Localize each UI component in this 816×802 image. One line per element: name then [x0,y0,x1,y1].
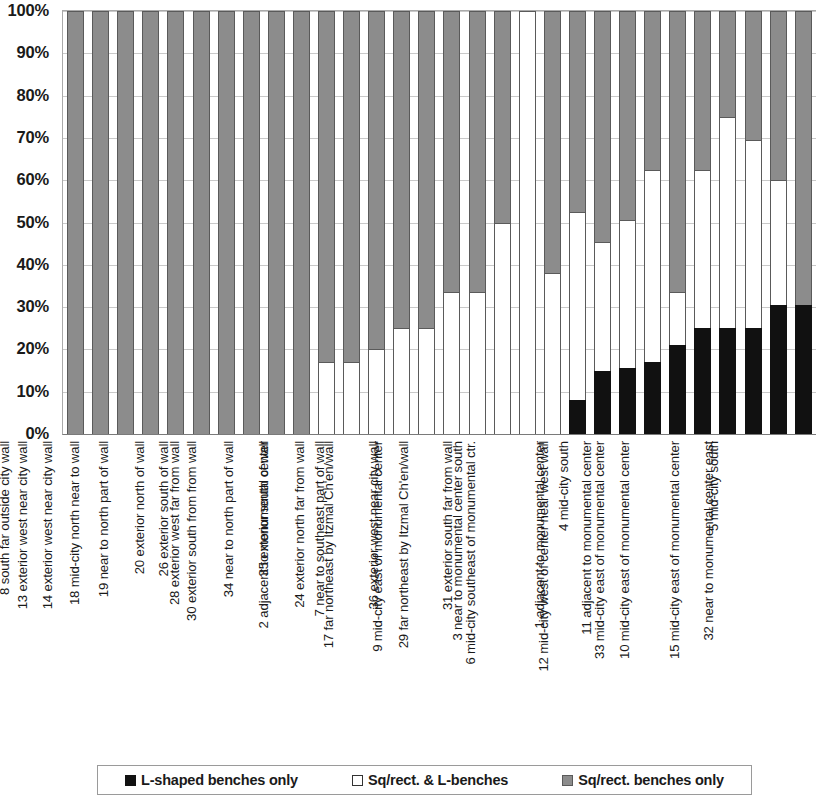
stacked-bar[interactable] [469,11,486,434]
bar-slot[interactable] [214,11,239,434]
y-axis-tick: 50% [0,213,49,230]
stacked-bar[interactable] [544,11,561,434]
bar-segment-sq-rect-only [193,11,210,434]
bar-segment-sq-rect-and-l [719,117,736,329]
stacked-bar[interactable] [770,11,787,434]
bar-segment-sq-rect-and-l [745,140,762,328]
bar-segment-sq-rect-only [343,11,360,362]
x-axis-labels: 8 south far outside city wall13 exterior… [62,437,815,755]
stacked-bar[interactable] [243,11,260,434]
y-axis-tick: 0% [0,425,49,442]
bar-slot[interactable] [690,11,715,434]
bar-slot[interactable] [389,11,414,434]
x-axis-label: 34 near to north part of wall [222,441,235,597]
stacked-bar[interactable] [92,11,109,434]
legend-item[interactable]: L-shaped benches only [125,772,298,788]
bar-segment-sq-rect-and-l [644,170,661,362]
stacked-bar[interactable] [745,11,762,434]
stacked-bar[interactable] [418,11,435,434]
x-axis-label: 9 mid-city east of monumental center [371,441,384,652]
bar-segment-l-shaped-only [795,305,812,434]
bar-segment-l-shaped-only [745,328,762,434]
stacked-bar[interactable] [142,11,159,434]
stacked-bar[interactable] [393,11,410,434]
bar-slot[interactable] [138,11,163,434]
stacked-bar[interactable] [67,11,84,434]
bar-segment-l-shaped-only [644,362,661,434]
bar-segment-sq-rect-and-l [469,292,486,434]
bar-slot[interactable] [490,11,515,434]
bar-slot[interactable] [364,11,389,434]
bar-slot[interactable] [741,11,766,434]
plot-area [62,10,816,435]
bar-slot[interactable] [188,11,213,434]
bar-slot[interactable] [715,11,740,434]
stacked-bar[interactable] [719,11,736,434]
stacked-bar[interactable] [343,11,360,434]
bar-slot[interactable] [88,11,113,434]
bar-slot[interactable] [63,11,88,434]
bar-slot[interactable] [414,11,439,434]
bar-slot[interactable] [640,11,665,434]
bar-slot[interactable] [439,11,464,434]
bar-segment-l-shaped-only [569,400,586,434]
stacked-bar[interactable] [619,11,636,434]
chart-legend: L-shaped benches onlySq/rect. & L-benche… [97,765,752,795]
bar-slot[interactable] [264,11,289,434]
stacked-bar[interactable] [368,11,385,434]
stacked-bar[interactable] [268,11,285,434]
bar-slot[interactable] [314,11,339,434]
bar-segment-sq-rect-and-l [393,328,410,434]
legend-item[interactable]: Sq/rect. & L-benches [352,772,508,788]
bar-slot[interactable] [615,11,640,434]
legend-label: Sq/rect. benches only [578,772,724,788]
bar-slot[interactable] [565,11,590,434]
white-square-icon [352,775,363,786]
bar-slot[interactable] [791,11,816,434]
bar-slot[interactable] [590,11,615,434]
stacked-bar[interactable] [569,11,586,434]
bar-segment-sq-rect-only [268,11,285,434]
bar-slot[interactable] [339,11,364,434]
stacked-bar[interactable] [218,11,235,434]
x-axis-label: 19 near to north part of wall [97,441,110,597]
legend-label: Sq/rect. & L-benches [368,772,508,788]
bar-segment-l-shaped-only [694,328,711,434]
bar-slot[interactable] [540,11,565,434]
stacked-bar[interactable] [117,11,134,434]
stacked-bar[interactable] [293,11,310,434]
stacked-bar[interactable] [193,11,210,434]
bar-slot[interactable] [113,11,138,434]
bar-slot[interactable] [766,11,791,434]
stacked-bar[interactable] [694,11,711,434]
bar-segment-sq-rect-only [368,11,385,349]
bar-segment-sq-rect-and-l [619,220,636,368]
y-axis-tick: 100% [0,2,49,19]
bar-slot[interactable] [515,11,540,434]
stacked-bar[interactable] [669,11,686,434]
bar-segment-l-shaped-only [770,305,787,434]
stacked-bar[interactable] [167,11,184,434]
bar-slot[interactable] [465,11,490,434]
stacked-bar[interactable] [318,11,335,434]
bar-slot[interactable] [289,11,314,434]
x-axis-label: 8 south far outside city wall [0,441,11,595]
bar-slot[interactable] [163,11,188,434]
bar-slot[interactable] [239,11,264,434]
stacked-bar[interactable] [519,11,536,434]
y-axis-tick: 90% [0,44,49,61]
x-axis-label: 18 mid-city north near to wall [68,441,81,605]
bar-slot[interactable] [665,11,690,434]
x-axis-label-slot: 12 mid-city west of center near west wal… [639,437,664,755]
stacked-bar[interactable] [494,11,511,434]
y-axis-tick: 70% [0,129,49,146]
x-axis-label-slot: 2 adjacent to monumental center [338,437,363,755]
bar-segment-sq-rect-only [218,11,235,434]
legend-item[interactable]: Sq/rect. benches only [562,772,724,788]
x-axis-label-slot: 29 far northeast by Itzmal Ch'en/wall [489,437,514,755]
stacked-bar[interactable] [594,11,611,434]
bar-segment-sq-rect-only [770,11,787,180]
stacked-bar[interactable] [644,11,661,434]
stacked-bar[interactable] [443,11,460,434]
stacked-bar[interactable] [795,11,812,434]
